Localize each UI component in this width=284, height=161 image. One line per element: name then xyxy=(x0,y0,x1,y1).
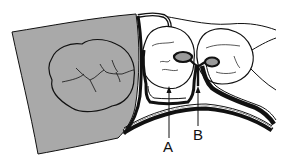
molar-outline xyxy=(49,40,134,112)
label-a: A xyxy=(163,138,173,155)
label-b: B xyxy=(193,126,203,143)
arrow-b-head xyxy=(196,86,201,93)
dental-diagram: A B xyxy=(0,0,284,161)
occlusal-rest-left xyxy=(174,52,192,62)
occlusal-rest-right xyxy=(205,58,219,67)
gum-outline-lower xyxy=(250,38,276,90)
